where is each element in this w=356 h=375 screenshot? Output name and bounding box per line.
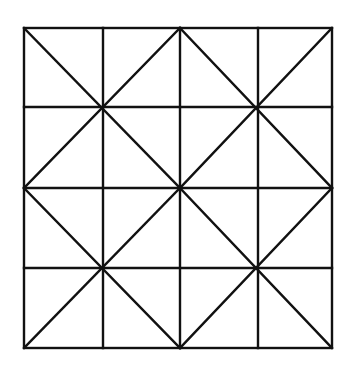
geometric-grid-diagram — [0, 0, 356, 375]
